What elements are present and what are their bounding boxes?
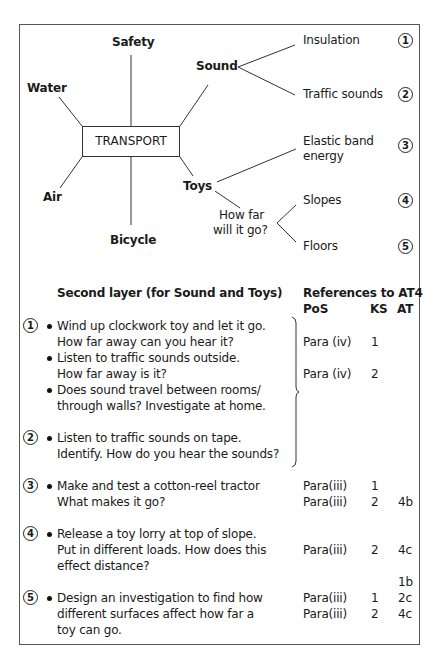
ref-ks: 2 (371, 542, 378, 558)
ref-at: 2c (398, 590, 412, 606)
ref-pos: Para(iii) (303, 606, 347, 622)
item-1-bullet-3-line1: Does sound travel between rooms/ (57, 382, 261, 398)
item-3-bullet-1-line2: What makes it go? (57, 494, 165, 510)
number-badge-1: 1 (398, 33, 413, 48)
ref-pos: Para(iii) (303, 542, 347, 558)
item-number-4: 4 (23, 526, 38, 541)
item-number-5: 5 (23, 590, 38, 605)
branch-water: Water (27, 80, 67, 96)
ref-ks: 2 (371, 494, 378, 510)
branch-sound: Sound (196, 58, 238, 74)
branch-bicycle: Bicycle (110, 232, 156, 248)
ref-at: 4b (398, 494, 413, 510)
node-elastic-band-line1: Elastic band (303, 133, 374, 149)
item-number-1: 1 (23, 318, 38, 333)
ref-ks: 1 (371, 590, 378, 606)
number-badge-2: 2 (398, 87, 413, 102)
item-2-bullet-1-line1: Listen to traffic sounds on tape. (57, 430, 241, 446)
item-4-bullet-1-line1: Release a toy lorry at top of slope. (57, 526, 256, 542)
bullet-dot (47, 532, 52, 537)
item-5-bullet-1-line2: different surfaces affect how far a (57, 606, 254, 622)
branch-toys: Toys (183, 178, 212, 194)
center-node-transport: TRANSPORT (82, 126, 180, 157)
item-2-bullet-1-line2: Identify. How do you hear the sounds? (57, 446, 279, 462)
item-5-bullet-1-line1: Design an investigation to find how (57, 590, 263, 606)
node-elastic-band-line2: energy (303, 148, 344, 164)
ref-at: 4c (398, 542, 412, 558)
node-slopes: Slopes (303, 192, 341, 208)
item-1-bullet-2-line2: How far away is it? (57, 366, 167, 382)
item-number-3: 3 (23, 478, 38, 493)
bullet-dot (47, 596, 52, 601)
column-at: AT (397, 301, 413, 317)
ref-ks: 2 (371, 606, 378, 622)
bullet-dot (47, 436, 52, 441)
node-how-far-line2: will it go? (213, 222, 268, 238)
number-badge-4: 4 (398, 193, 413, 208)
number-badge-3: 3 (398, 138, 413, 153)
second-layer-heading: Second layer (for Sound and Toys) (57, 285, 282, 301)
item-number-2: 2 (23, 430, 38, 445)
ref-ks: 1 (371, 478, 378, 494)
ref-pos: Para(iii) (303, 494, 347, 510)
item-1-bullet-1-line2: How far away can you hear it? (57, 334, 234, 350)
column-ks: KS (370, 301, 388, 317)
node-how-far-line1: How far (219, 207, 264, 223)
bullet-dot (47, 484, 52, 489)
ref-pos: Para (iv) (303, 334, 351, 350)
item-1-bullet-2-line1: Listen to traffic sounds outside. (57, 350, 240, 366)
branch-safety: Safety (112, 34, 154, 50)
branch-air: Air (43, 189, 62, 205)
bullet-dot (47, 388, 52, 393)
references-heading: References to AT4 (303, 285, 423, 301)
ref-at: 4c (398, 606, 412, 622)
ref-pos: Para(iii) (303, 478, 347, 494)
ref-pos: Para (iv) (303, 366, 351, 382)
node-insulation: Insulation (303, 32, 360, 48)
ref-at: 1b (398, 574, 413, 590)
number-badge-5: 5 (398, 239, 413, 254)
item-4-bullet-1-line2: Put in different loads. How does this (57, 542, 266, 558)
column-pos: PoS (303, 301, 328, 317)
ref-ks: 2 (371, 366, 378, 382)
bullet-dot (47, 324, 52, 329)
item-1-bullet-1-line1: Wind up clockwork toy and let it go. (57, 318, 266, 334)
item-4-bullet-1-line3: effect distance? (57, 558, 149, 574)
node-floors: Floors (303, 238, 338, 254)
item-1-bullet-3-line2: through walls? Investigate at home. (57, 398, 266, 414)
ref-pos: Para(iii) (303, 590, 347, 606)
item-5-bullet-1-line3: toy can go. (57, 622, 122, 638)
bullet-dot (47, 356, 52, 361)
item-3-bullet-1-line1: Make and test a cotton-reel tractor (57, 478, 260, 494)
node-traffic-sounds: Traffic sounds (303, 86, 383, 102)
ref-ks: 1 (371, 334, 378, 350)
